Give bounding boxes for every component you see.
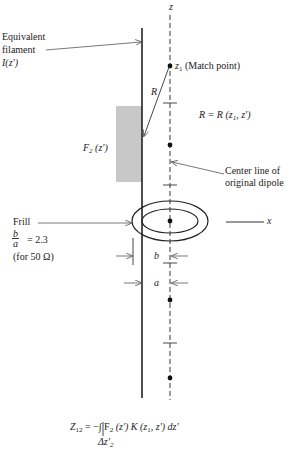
dimension-b-label: b [154, 250, 159, 261]
distance-r-arrow [144, 67, 169, 136]
z-axis-label: z [169, 1, 173, 12]
distance-definition: R = R (z1, z') [199, 109, 251, 120]
filament-label-line1: Equivalent [2, 31, 45, 42]
impedance-equation: Z12 = −∫ F2 (z') K (z1, z') dz' [70, 421, 179, 432]
expansion-function-tail: (z') [93, 142, 108, 153]
equation-rhs: = −∫ F [83, 421, 110, 432]
frill-ratio-denominator: a [12, 239, 19, 248]
filament-leader-arrow [46, 42, 141, 50]
antenna-diagram [0, 0, 288, 466]
center-line-label-line2: original dipole [225, 177, 284, 188]
match-point-label: z1 (Match point) [175, 60, 240, 71]
match-point-text: (Match point) [182, 60, 240, 71]
distance-r-label: R [151, 86, 157, 97]
expansion-function-region [116, 106, 142, 182]
equation-lhs-sub: 12 [76, 426, 83, 434]
frill-ratio-fraction: b a [12, 229, 19, 248]
distance-definition-tail: , z') [236, 109, 250, 120]
equation-rhs-tail: , z') dz' [151, 421, 179, 432]
integral-limit-sub: 2 [110, 441, 114, 449]
center-line-label-line1: Center line of [225, 165, 280, 176]
x-axis-label: x [267, 215, 271, 226]
integral-limit-text: Δz' [98, 436, 110, 447]
filament-label-line2: filament [2, 44, 35, 55]
distance-definition-text: R = R (z [199, 109, 233, 120]
frill-ratio-value: = 2.3 [27, 234, 48, 245]
integral-limit: Δz'2 [98, 436, 113, 447]
frill-label: Frill [13, 216, 30, 227]
dimension-a-label: a [154, 277, 159, 288]
equation-rhs-mid: (z') K (z [113, 421, 147, 432]
center-line-leader-arrow [172, 162, 224, 174]
frill-ratio-note: (for 50 Ω) [13, 251, 54, 262]
filament-label-line3: I(z') [2, 57, 18, 68]
expansion-function-label: F2 (z') [83, 142, 108, 153]
